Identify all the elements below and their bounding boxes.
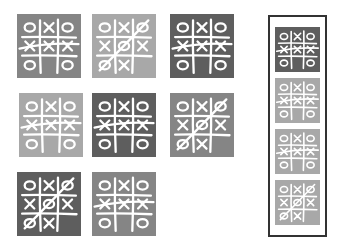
tic-tac-toe-board	[275, 27, 320, 72]
board-tile[interactable]	[275, 27, 320, 72]
tic-tac-toe-board	[275, 129, 320, 174]
board-tile[interactable]	[275, 180, 320, 225]
tic-tac-toe-board	[92, 93, 156, 157]
board-tile[interactable]	[19, 93, 83, 157]
tic-tac-toe-board	[17, 14, 81, 78]
tic-tac-toe-board	[92, 14, 156, 78]
board-tile[interactable]	[92, 172, 156, 236]
tic-tac-toe-board	[92, 172, 156, 236]
board-tile[interactable]	[92, 14, 156, 78]
board-tile[interactable]	[17, 172, 81, 236]
tic-tac-toe-board	[19, 93, 83, 157]
board-tile[interactable]	[170, 14, 234, 78]
board-tile[interactable]	[275, 129, 320, 174]
tic-tac-toe-board	[170, 14, 234, 78]
board-tile[interactable]	[17, 14, 81, 78]
tic-tac-toe-board	[170, 93, 234, 157]
board-tile[interactable]	[275, 78, 320, 123]
tic-tac-toe-board	[275, 78, 320, 123]
board-tile[interactable]	[92, 93, 156, 157]
tic-tac-toe-board	[17, 172, 81, 236]
tic-tac-toe-board	[275, 180, 320, 225]
board-tile[interactable]	[170, 93, 234, 157]
